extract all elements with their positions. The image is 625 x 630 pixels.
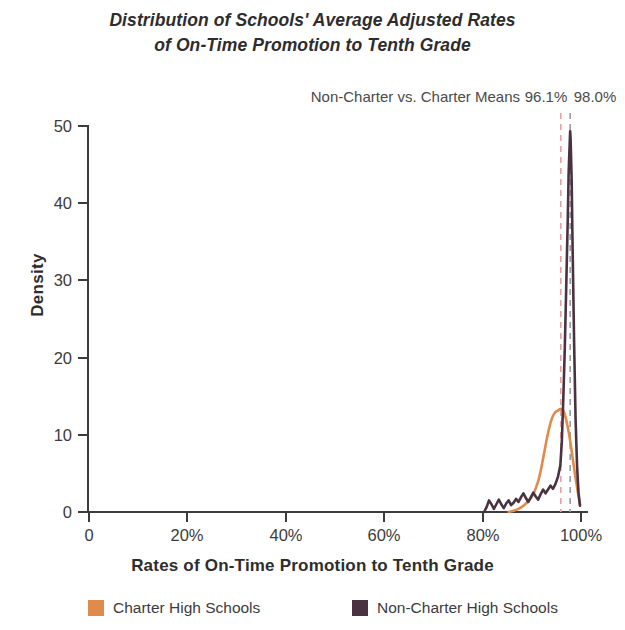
y-tick-label: 10 [12,427,72,444]
means-annotation: Non-Charter vs. Charter Means 96.1% 98.0… [0,88,625,110]
x-tick-label: 80% [443,527,523,544]
legend-label-non-charter: Non-Charter High Schools [377,600,558,616]
plot-area [88,125,580,512]
charter-mean-value: 98.0% [572,88,618,105]
density-curves-svg [78,113,590,523]
y-tick-label: 0 [12,504,72,521]
chart-legend: Charter High Schools Non-Charter High Sc… [0,600,625,626]
legend-item-non-charter: Non-Charter High Schools [352,600,558,616]
x-tick-label: 40% [246,527,326,544]
x-tick-label: 100% [541,527,621,544]
x-tick-label: 20% [147,527,227,544]
chart-title: Distribution of Schools' Average Adjuste… [0,8,625,58]
x-tick-label: 60% [344,527,424,544]
x-tick-label: 0 [49,527,129,544]
chart-figure: Distribution of Schools' Average Adjuste… [0,0,625,630]
non-charter-mean-value: 96.1% [523,88,569,105]
legend-label-charter: Charter High Schools [113,600,260,616]
means-annotation-label: Non-Charter vs. Charter Means [311,88,520,105]
y-tick-label: 50 [12,118,72,135]
legend-swatch-charter-icon [88,600,104,616]
chart-title-line-1: Distribution of Schools' Average Adjuste… [0,8,625,33]
non-charter-density-curve [484,131,580,512]
x-axis-title: Rates of On-Time Promotion to Tenth Grad… [0,556,625,576]
legend-item-charter: Charter High Schools [88,600,260,616]
y-axis-title: Density [28,185,48,385]
legend-swatch-non-charter-icon [352,600,368,616]
chart-title-line-2: of On-Time Promotion to Tenth Grade [0,33,625,58]
charter-density-curve [509,409,580,512]
